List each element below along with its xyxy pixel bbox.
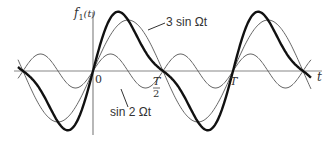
half-period-denominator: 2 — [153, 88, 159, 99]
half-period-numerator: T — [153, 75, 160, 88]
fourier-diagram: f1(t) t 0 T 2 T 3 sin Ωt sin 2 Ωt — [0, 0, 335, 145]
period-label: T — [230, 75, 237, 88]
y-axis-label: f1(t) — [74, 6, 95, 22]
x-axis-label: t — [317, 70, 322, 84]
label-sin-2: sin 2 Ωt — [110, 105, 151, 119]
label-3-sin: 3 sin Ωt — [166, 15, 207, 29]
leader-3-sin — [148, 23, 165, 30]
origin-label: 0 — [95, 73, 102, 86]
